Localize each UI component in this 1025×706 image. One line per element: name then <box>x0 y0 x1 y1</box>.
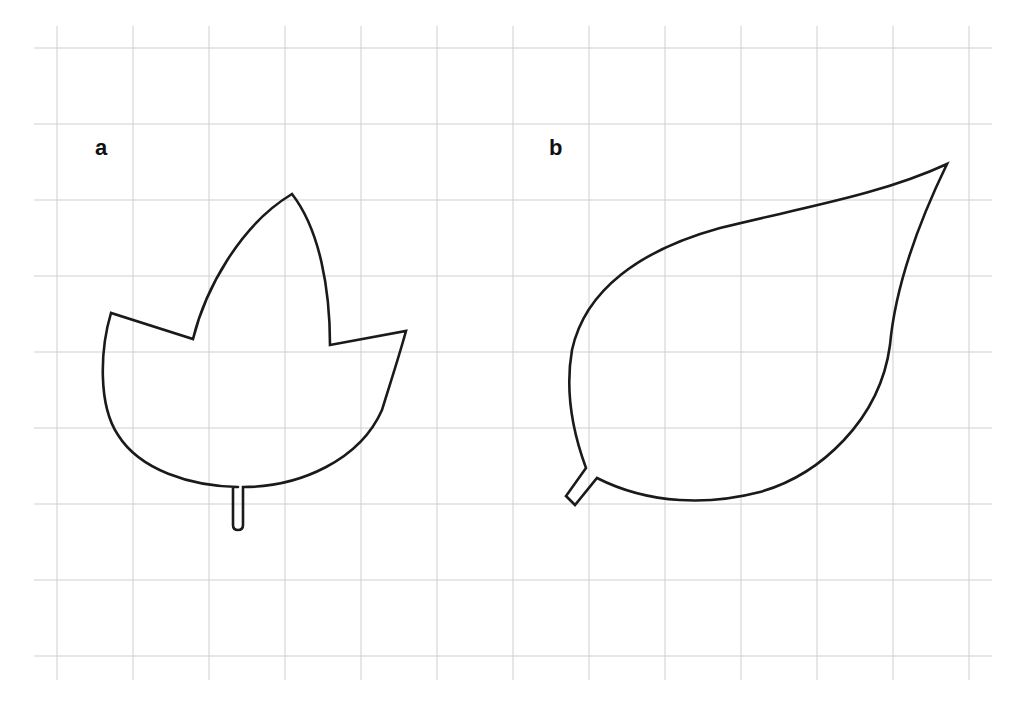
leaf-b-panel: b <box>549 135 947 505</box>
grid <box>34 26 992 680</box>
leaf-diagram: a b <box>0 0 1025 706</box>
leaf-b-outline <box>566 164 947 505</box>
panel-label-b: b <box>549 135 562 160</box>
leaf-a-panel: a <box>95 135 406 530</box>
panel-label-a: a <box>95 135 108 160</box>
